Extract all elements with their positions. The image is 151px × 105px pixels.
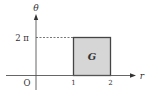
x-axis-arrow-icon (130, 73, 136, 77)
x-tick-label-2: 2 (108, 79, 112, 87)
y-tick-label-2pi: 2 π (15, 33, 29, 43)
region-diagram: θ r O 2 π 1 2 G (0, 0, 151, 105)
x-tick-label-1: 1 (71, 79, 75, 87)
origin-label: O (24, 78, 31, 88)
x-axis-label: r (140, 71, 145, 81)
y-axis-label: θ (33, 3, 39, 13)
region-label: G (88, 51, 97, 62)
y-axis-arrow-icon (34, 14, 38, 20)
